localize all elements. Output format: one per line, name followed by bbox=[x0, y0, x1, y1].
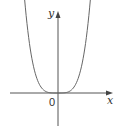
function-plot: y x 0 bbox=[0, 0, 122, 135]
x-axis-label: x bbox=[107, 94, 114, 107]
y-axis-arrow-icon bbox=[56, 11, 61, 18]
y-axis-label: y bbox=[47, 7, 55, 20]
origin-label: 0 bbox=[49, 96, 55, 108]
